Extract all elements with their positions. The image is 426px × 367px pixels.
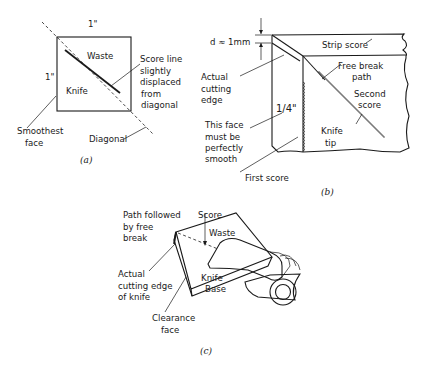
holder-knob [270,279,296,305]
free-break-path-label: Free break path [338,61,386,82]
clearance-face-label: Clearance face [152,313,198,335]
first-score-label: First score [245,173,289,183]
smooth-face-label: This face must be perfectly smooth [204,120,246,164]
knife-label: Knife [66,86,88,96]
strip-score-label: Strip score [322,40,368,50]
score-leader [111,64,140,86]
panel-c: Path followed by free break Score Waste … [118,210,300,356]
d-label: d ≈ 1mm [210,37,250,47]
knife-base-label: Knife Base [201,273,226,294]
smoothest-face-label: Smoothest face [17,126,66,148]
actual-cutting-edge-label: Actual cutting edge [201,72,234,105]
quarter-inch-label: 1/4" [276,103,297,114]
diagonal-leader [124,127,146,139]
holder-arm [245,274,300,300]
diagonal-label: Diagonal [89,134,127,144]
smoothest-leader [27,96,56,128]
knife-tip-label: Knife tip [321,126,346,148]
score-label-c: Score [198,210,222,220]
glass-knife-diagram: 1" 1" Waste Knife Score line slightly di… [0,0,426,367]
caption-a: (a) [80,155,93,165]
dim-left-label: 1" [45,72,54,82]
caption-c: (c) [200,346,213,356]
panel-b: d ≈ 1mm Strip score Actual cutting edge … [201,18,409,197]
caption-b: (b) [321,187,334,197]
second-score-label: Second score [354,89,388,110]
free-break-path [303,56,325,80]
panel-a: 1" 1" Waste Knife Score line slightly di… [17,19,185,165]
diagonal-line [42,22,154,135]
waste-label: Waste [87,51,113,61]
score-line-label: Score line slightly displaced from diago… [140,54,185,110]
actual-cutting-edge-c-label: Actual cutting edge of knife [118,269,175,302]
dim-top-label: 1" [88,19,97,29]
waste-label-c: Waste [209,228,235,238]
